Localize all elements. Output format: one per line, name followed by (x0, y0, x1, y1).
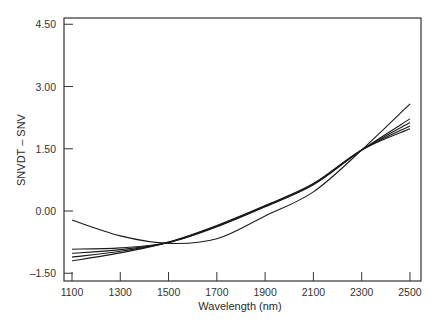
x-tick-label: 1900 (253, 286, 277, 298)
y-axis-ticks: 4.503.001.500.00–1.50 (30, 18, 73, 279)
series-line-curve-4 (72, 126, 410, 257)
y-tick-label: 3.00 (36, 81, 57, 93)
x-axis-ticks: 11001300150017001900210023002500 (61, 272, 422, 298)
series-line-curve-1 (72, 104, 410, 244)
x-tick-label: 2100 (302, 286, 326, 298)
x-tick-label: 1500 (157, 286, 181, 298)
series-line-curve-3 (72, 123, 410, 254)
series-line-curve-2 (72, 119, 410, 249)
x-tick-label: 2300 (350, 286, 374, 298)
chart: 4.503.001.500.00–1.50 110013001500170019… (0, 0, 441, 327)
y-tick-label: 4.50 (36, 18, 57, 30)
x-axis-label: Wavelength (nm) (198, 300, 281, 312)
y-tick-label: 1.50 (36, 143, 57, 155)
y-axis-label: SNVDT – SNV (15, 113, 27, 186)
series-line-curve-5 (72, 129, 410, 261)
y-tick-label: 0.00 (36, 205, 57, 217)
y-tick-label: –1.50 (30, 267, 56, 279)
x-tick-label: 1300 (109, 286, 133, 298)
x-tick-label: 1700 (205, 286, 229, 298)
plot-frame (64, 18, 421, 281)
series-lines (72, 104, 410, 261)
x-tick-label: 1100 (61, 286, 84, 298)
x-tick-label: 2500 (398, 286, 422, 298)
